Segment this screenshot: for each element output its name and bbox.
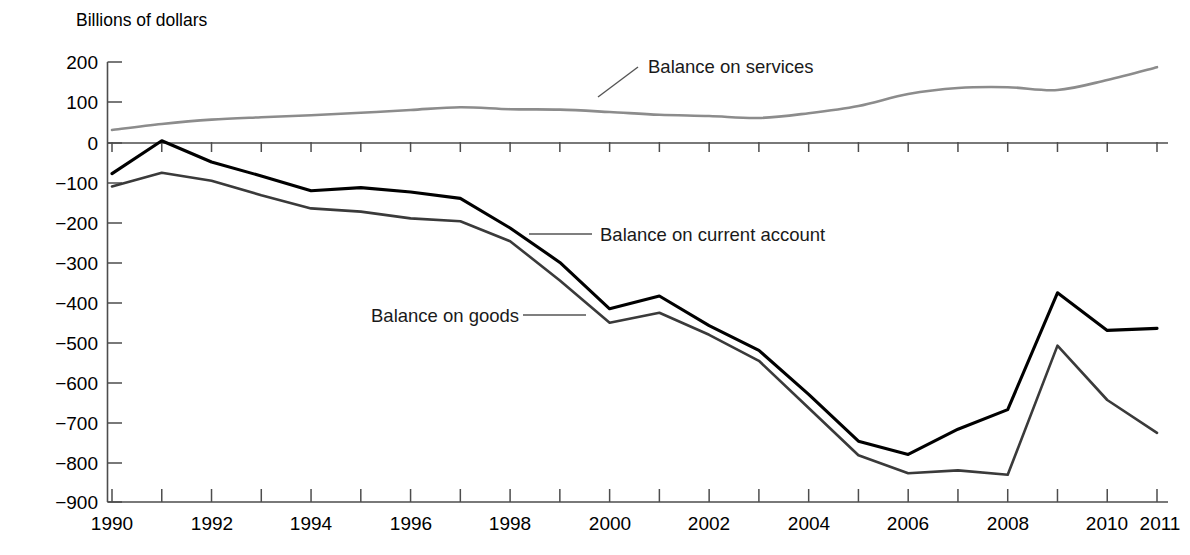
balance-of-payments-line-chart: Billions of dollars 200 100 0 −100 −20 — [0, 0, 1190, 555]
x-tick-labels: 1990 1992 1994 1996 1998 2000 2002 2004 … — [91, 513, 1181, 534]
series-line-balance-on-current-account — [112, 141, 1157, 455]
y-tick-label: −800 — [55, 453, 98, 474]
x-tick-label: 1994 — [290, 513, 333, 534]
x-tick-marks — [112, 489, 1157, 502]
x-tick-label: 1992 — [191, 513, 233, 534]
chart-figure: Billions of dollars 200 100 0 −100 −20 — [0, 0, 1190, 555]
y-tick-label: −700 — [55, 413, 98, 434]
x-tick-label: 1998 — [489, 513, 531, 534]
y-tick-label: 0 — [87, 133, 98, 154]
annotation-label-services: Balance on services — [648, 56, 814, 77]
x-tick-label: 1996 — [390, 513, 432, 534]
x-tick-label: 2011 — [1140, 513, 1181, 534]
x-tick-label: 2006 — [887, 513, 929, 534]
annotation-label-current-account: Balance on current account — [600, 224, 825, 245]
series-line-balance-on-goods — [112, 173, 1157, 475]
x-tick-label: 2000 — [589, 513, 631, 534]
y-tick-label: 200 — [66, 52, 98, 73]
y-tick-labels: 200 100 0 −100 −200 −300 −400 −500 −600 … — [55, 52, 98, 513]
y-tick-label: 100 — [66, 92, 98, 113]
y-axis-title: Billions of dollars — [76, 10, 208, 30]
x-tick-label: 2010 — [1086, 513, 1128, 534]
series-line-balance-on-services — [112, 67, 1157, 130]
x-tick-label: 2008 — [987, 513, 1029, 534]
leader-line-services — [598, 67, 638, 97]
x-tick-label: 2002 — [688, 513, 730, 534]
y-tick-label: −500 — [55, 333, 98, 354]
y-tick-label: −600 — [55, 373, 98, 394]
y-tick-label: −300 — [55, 253, 98, 274]
y-tick-label: −900 — [55, 492, 98, 513]
annotation-label-goods: Balance on goods — [371, 305, 519, 326]
y-tick-label: −400 — [55, 293, 98, 314]
x-tick-label: 1990 — [91, 513, 133, 534]
y-tick-label: −200 — [55, 213, 98, 234]
y-tick-label: −100 — [55, 173, 98, 194]
x-tick-label: 2004 — [788, 513, 831, 534]
